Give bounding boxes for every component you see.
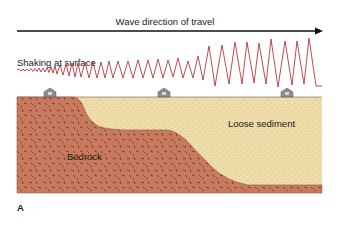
house-icon [158,88,170,97]
bedrock-label: Bedrock [67,151,102,162]
house-icon [281,88,293,97]
panel-label: A [17,202,24,213]
loose-sediment-label: Loose sediment [228,118,295,129]
wave-direction-arrow [17,28,323,35]
house-icon [44,88,56,97]
wave-direction-label: Wave direction of travel [116,16,215,27]
seismic-amplification-diagram: Wave direction of travel Shaking at surf… [0,0,338,230]
